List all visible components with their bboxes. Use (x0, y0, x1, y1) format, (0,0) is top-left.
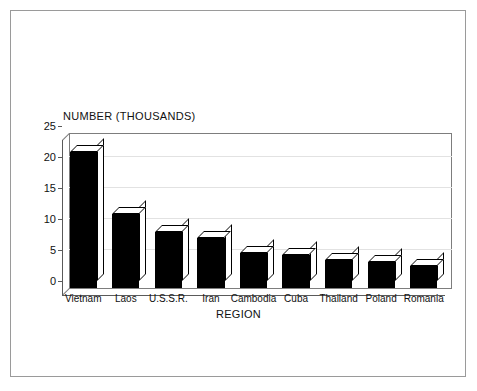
y-tick-label: 0 (50, 275, 56, 287)
bar: Cuba (282, 248, 309, 288)
bar: U.S.S.R. (155, 225, 182, 288)
bar: Cambodia (240, 246, 267, 288)
x-tick-label: Cambodia (231, 293, 277, 304)
floor-back-edge (69, 288, 452, 289)
bar-front-face (197, 238, 224, 288)
bar: Poland (368, 255, 395, 288)
bar-front-face (70, 152, 97, 288)
bar: Thailand (325, 253, 352, 288)
y-tick-mark (58, 157, 62, 158)
bar: Romania (410, 259, 437, 288)
y-tick-mark (58, 188, 62, 189)
bar-front-face (368, 262, 395, 288)
x-tick-label: Romania (404, 293, 444, 304)
chart-title: NUMBER (THOUSANDS) (63, 110, 196, 122)
bar-front-face (112, 214, 139, 288)
x-tick-label: Laos (115, 293, 137, 304)
y-tick-mark (58, 219, 62, 220)
y-tick-mark (58, 250, 62, 251)
gridline (69, 156, 452, 157)
bar-front-face (155, 232, 182, 288)
y-tick-label: 20 (44, 151, 56, 163)
x-tick-label: Cuba (284, 293, 308, 304)
bar-front-face (282, 255, 309, 288)
bar: Laos (112, 207, 139, 288)
x-axis-title: REGION (0, 308, 477, 320)
bar-front-face (325, 260, 352, 288)
bar-chart-figure: NUMBER (THOUSANDS) 0510152025 VietnamLao… (0, 0, 477, 391)
y-tick-label: 10 (44, 213, 56, 225)
bar: Vietnam (70, 145, 97, 288)
gridline (69, 187, 452, 188)
x-tick-label: U.S.S.R. (149, 293, 188, 304)
x-tick-label: Iran (202, 293, 219, 304)
y-tick-label: 5 (50, 244, 56, 256)
x-tick-label: Thailand (319, 293, 357, 304)
y-axis-line (62, 140, 63, 295)
bar-side-face (97, 138, 104, 281)
y-tick-mark (58, 281, 62, 282)
plot-area: 0510152025 VietnamLaosU.S.S.R.IranCambod… (62, 133, 452, 288)
bar: Iran (197, 231, 224, 288)
y-tick-mark (58, 126, 62, 127)
bar-front-face (410, 266, 437, 288)
y-tick-label: 25 (44, 120, 56, 132)
x-tick-label: Poland (366, 293, 397, 304)
x-tick-label: Vietnam (65, 293, 102, 304)
y-tick-label: 15 (44, 182, 56, 194)
bar-front-face (240, 253, 267, 288)
